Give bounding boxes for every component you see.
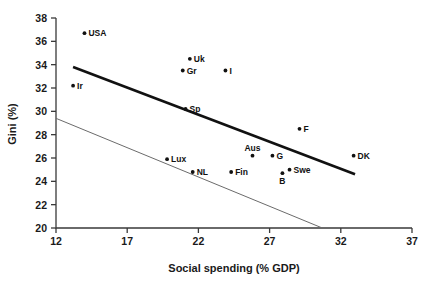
x-axis-title: Social spending (% GDP) bbox=[168, 262, 300, 274]
scatter-chart: 121722273237 20222426283032343638 USAUkG… bbox=[0, 0, 434, 284]
data-point-dot bbox=[184, 107, 188, 111]
data-point-label: DK bbox=[358, 151, 371, 161]
x-tick-label: 12 bbox=[50, 235, 62, 247]
data-point-label: Swe bbox=[294, 165, 311, 175]
data-point-dot bbox=[251, 154, 255, 158]
x-tick-label: 37 bbox=[406, 235, 418, 247]
y-tick-label: 20 bbox=[35, 222, 47, 234]
data-point-dot bbox=[224, 69, 228, 73]
data-point-label: Gr bbox=[187, 66, 198, 76]
y-tick-label: 32 bbox=[35, 82, 47, 94]
data-point-dot bbox=[181, 69, 185, 73]
data-point-dot bbox=[271, 154, 275, 158]
data-point-label: Aus bbox=[244, 143, 260, 153]
data-point-label: USA bbox=[88, 28, 106, 38]
data-point-label: Sp bbox=[190, 104, 201, 114]
y-tick-label: 22 bbox=[35, 199, 47, 211]
y-tick-label: 28 bbox=[35, 129, 47, 141]
y-tick-label: 36 bbox=[35, 35, 47, 47]
y-tick-label: 34 bbox=[35, 59, 47, 71]
chart-background bbox=[0, 0, 434, 284]
data-point-dot bbox=[288, 168, 292, 172]
data-point-label: G bbox=[276, 151, 283, 161]
data-point-label: Fin bbox=[235, 167, 248, 177]
data-point-label: I bbox=[229, 66, 231, 76]
data-point-label: Lux bbox=[171, 154, 186, 164]
data-point-label: B bbox=[279, 176, 285, 186]
data-point-label: F bbox=[304, 124, 309, 134]
data-point-dot bbox=[191, 170, 195, 174]
x-tick-label: 17 bbox=[121, 235, 133, 247]
data-point-dot bbox=[165, 157, 169, 161]
data-point-dot bbox=[281, 171, 285, 175]
x-tick-label: 22 bbox=[193, 235, 205, 247]
x-tick-label: 27 bbox=[264, 235, 276, 247]
y-tick-label: 30 bbox=[35, 105, 47, 117]
x-tick-label: 32 bbox=[335, 235, 347, 247]
y-tick-label: 26 bbox=[35, 152, 47, 164]
data-point-dot bbox=[83, 31, 87, 35]
chart-canvas: 121722273237 20222426283032343638 USAUkG… bbox=[0, 0, 434, 284]
data-point-dot bbox=[298, 127, 302, 131]
data-point-label: NL bbox=[197, 167, 208, 177]
y-tick-label: 24 bbox=[35, 175, 47, 187]
data-point-dot bbox=[352, 154, 356, 158]
data-point-dot bbox=[229, 170, 233, 174]
data-point-label: Ir bbox=[77, 81, 83, 91]
data-point-dot bbox=[71, 84, 75, 88]
y-axis-title: Gini (%) bbox=[6, 103, 18, 145]
data-point-dot bbox=[188, 57, 192, 61]
data-point-label: Uk bbox=[194, 54, 205, 64]
y-tick-label: 38 bbox=[35, 12, 47, 24]
